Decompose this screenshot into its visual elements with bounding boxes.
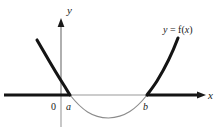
x-axis-label: x (207, 89, 213, 101)
function-graph-figure: y x 0 a b y = f(x) (0, 0, 217, 127)
origin-label: 0 (51, 101, 56, 112)
function-label-close: ) (189, 24, 192, 36)
curve-thin-segment (70, 95, 147, 118)
y-axis-label: y (66, 4, 72, 16)
curve-thick-left-branch (37, 40, 70, 95)
y-axis-arrow-icon (58, 18, 65, 27)
graph-svg: y x 0 a b y = f(x) (0, 0, 217, 127)
x-axis-arrow-icon (197, 91, 206, 98)
root-a-label: a (66, 101, 71, 112)
curve-thick-right-branch (147, 38, 178, 95)
root-b-label: b (143, 101, 148, 112)
function-label: y = f(x) (162, 24, 193, 36)
function-label-eq: = f( (167, 24, 185, 36)
